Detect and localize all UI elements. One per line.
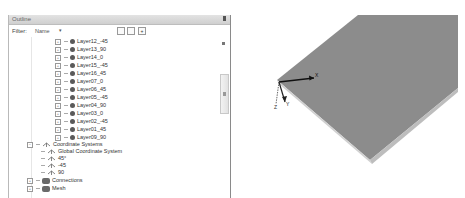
tree-item-coordinate-system[interactable]: -45 — [41, 162, 66, 169]
chevron-down-icon[interactable]: ▾ — [59, 27, 62, 33]
expand-icon[interactable]: + — [55, 119, 61, 125]
expand-icon[interactable]: + — [27, 178, 33, 184]
expand-icon[interactable]: + — [55, 71, 61, 77]
tree-item-layer[interactable]: +Layer13_90 — [55, 46, 106, 53]
tree-item-layer[interactable]: +Layer05_-45 — [55, 94, 108, 101]
layer-icon — [70, 79, 75, 84]
link-icon — [64, 73, 68, 74]
tree-item-layer[interactable]: +Layer15_-45 — [55, 62, 108, 69]
tree-item-label: 90 — [58, 169, 64, 175]
tree-item-coordinate-system[interactable]: 45° — [41, 155, 66, 162]
link-icon — [64, 129, 68, 130]
tree-item-layer[interactable]: +Layer14_0 — [55, 54, 103, 61]
tree-item-label: Layer05_-45 — [77, 94, 108, 100]
tree-item-label: -45 — [58, 162, 66, 168]
axis-label-y: Y — [286, 101, 289, 107]
tree-item-label: Layer13_90 — [77, 46, 106, 52]
collapse-all-button[interactable] — [127, 27, 135, 35]
tree-item-layer[interactable]: +Layer06_45 — [55, 86, 106, 93]
link-icon — [41, 158, 45, 159]
tree-item-label: Connections — [52, 177, 83, 183]
tree-item-label: Global Coordinate System — [58, 148, 122, 154]
mesh-icon — [42, 186, 50, 192]
tree-item-layer[interactable]: +Layer12_-45 — [55, 38, 108, 45]
outline-title: Outline — [12, 16, 31, 22]
expand-icon[interactable]: + — [55, 87, 61, 93]
tree-item-label: Layer07_0 — [77, 78, 103, 84]
tree-item-label: 45° — [58, 155, 66, 161]
outline-titlebar: Outline — [9, 15, 230, 25]
layer-icon — [70, 103, 75, 108]
outline-panel: Outline Filter: Name ▾ + +Layer12_-45 +L… — [8, 15, 231, 198]
coordinate-system-icon — [47, 163, 56, 168]
link-icon — [64, 89, 68, 90]
tree-item-coordinate-systems[interactable]: −Coordinate Systems — [27, 141, 103, 148]
layer-icon — [70, 47, 75, 52]
link-icon — [41, 172, 45, 173]
filter-dropdown[interactable]: Name — [35, 28, 50, 34]
coordinate-system-icon — [47, 156, 56, 161]
expand-icon[interactable]: + — [55, 47, 61, 53]
expand-icon[interactable]: + — [55, 39, 61, 45]
scrollbar-thumb[interactable] — [220, 74, 229, 114]
expand-icon[interactable]: + — [55, 55, 61, 61]
link-icon — [64, 137, 68, 138]
collapse-icon[interactable]: − — [27, 142, 33, 148]
expand-icon[interactable]: + — [55, 95, 61, 101]
tree-item-label: Mesh — [52, 185, 65, 191]
tree-item-layer[interactable]: +Layer04_90 — [55, 102, 106, 109]
expand-icon[interactable]: + — [55, 63, 61, 69]
tree-item-label: Layer14_0 — [77, 54, 103, 60]
add-button[interactable]: + — [138, 27, 146, 35]
tree-item-label: Layer16_45 — [77, 70, 106, 76]
axis-label-x: X — [315, 72, 318, 78]
tree-item-layer[interactable]: +Layer03_0 — [55, 110, 103, 117]
link-icon — [36, 144, 40, 145]
expand-icon[interactable]: + — [55, 79, 61, 85]
layer-icon — [70, 39, 75, 44]
tree-item-label: Layer15_-45 — [77, 62, 108, 68]
tree-item-mesh[interactable]: +Mesh — [27, 185, 65, 192]
expand-icon[interactable]: + — [55, 103, 61, 109]
tree-item-label: Layer12_-45 — [77, 38, 108, 44]
tree-item-layer[interactable]: +Layer07_0 — [55, 78, 103, 85]
tree-item-layer[interactable]: +Layer02_-45 — [55, 118, 108, 125]
expand-icon[interactable]: + — [55, 111, 61, 117]
tree-item-layer[interactable]: +Layer09_90 — [55, 134, 106, 141]
axis-label-z: Z — [274, 104, 277, 110]
link-icon — [64, 113, 68, 114]
tree-item-label: Coordinate Systems — [53, 141, 103, 147]
expand-icon[interactable]: + — [55, 127, 61, 133]
link-icon — [36, 188, 40, 189]
tree-item-label: Layer03_0 — [77, 110, 103, 116]
layer-icon — [70, 71, 75, 76]
tree-item-global-coordinate-system[interactable]: Global Coordinate System — [41, 148, 122, 155]
expand-icon[interactable]: + — [55, 135, 61, 141]
tree-item-layer[interactable]: +Layer01_45 — [55, 126, 106, 133]
grip-icon — [223, 92, 226, 96]
link-icon — [41, 165, 45, 166]
layer-icon — [70, 63, 75, 68]
tree-item-coordinate-system[interactable]: 90 — [41, 169, 64, 176]
layer-icon — [70, 119, 75, 124]
layer-icon — [70, 127, 75, 132]
tree-item-connections[interactable]: +Connections — [27, 177, 83, 184]
tree-scrollbar[interactable] — [219, 37, 230, 198]
scroll-up-arrow-icon[interactable] — [222, 42, 225, 45]
pin-icon[interactable] — [223, 16, 226, 21]
tree-item-label: Layer04_90 — [77, 102, 106, 108]
expand-icon[interactable]: + — [27, 186, 33, 192]
3d-viewport[interactable]: X Y Z — [232, 0, 465, 198]
tree-item-layer[interactable]: +Layer16_45 — [55, 70, 106, 77]
link-icon — [64, 57, 68, 58]
connections-icon — [42, 178, 50, 184]
expand-all-button[interactable] — [117, 27, 125, 35]
tree-item-label: Layer09_90 — [77, 134, 106, 140]
filter-label: Filter: — [12, 28, 27, 34]
link-icon — [64, 81, 68, 82]
coordinate-system-icon — [42, 142, 51, 147]
link-icon — [64, 97, 68, 98]
tree-item-label: Layer01_45 — [77, 126, 106, 132]
link-icon — [64, 49, 68, 50]
layer-icon — [70, 111, 75, 116]
